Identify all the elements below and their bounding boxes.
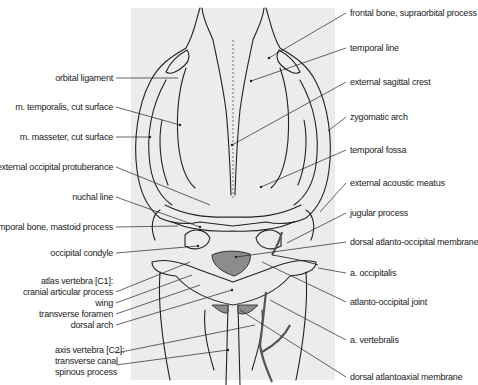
dorsal-atlantoaxial-membrane	[212, 305, 258, 314]
label-orbital-ligament: orbital ligament	[55, 73, 113, 83]
label-cranial-articular-process: cranial articular process	[23, 287, 113, 297]
label-jugular-process: jugular process	[350, 208, 408, 218]
label-m-masseter: m. masseter, cut surface	[20, 132, 113, 142]
label-m-temporalis: m. temporalis, cut surface	[15, 102, 113, 112]
label-wing: wing	[95, 298, 113, 308]
label-nuchal-line: nuchal line	[72, 192, 113, 202]
label-dorsal-arch: dorsal arch	[71, 320, 113, 330]
label-dorsal-atlanto-occipital-membrane: dorsal atlanto-occipital membrane	[350, 237, 478, 247]
label-temporal-fossa: temporal fossa	[350, 145, 406, 155]
dorsal-atlanto-occipital-membrane	[212, 251, 250, 276]
label-external-occipital-protuberance: external occipital protuberance	[0, 162, 113, 172]
label-dorsal-atlantoaxial-membrane: dorsal atlantoaxial membrane	[350, 372, 462, 382]
label-atlas-vertebra: atlas vertebra [C1]:	[41, 276, 113, 286]
a-vertebralis-vessel	[260, 232, 290, 382]
label-external-sagittal-crest: external sagittal crest	[350, 77, 430, 87]
label-external-acoustic-meatus: external acoustic meatus	[350, 178, 445, 188]
label-transverse-foramen: transverse foramen	[39, 309, 113, 319]
label-atlanto-occipital-joint: atlanto-occipital joint	[350, 297, 427, 307]
label-frontal-bone-supraorbital-process: frontal bone, supraorbital process	[350, 8, 477, 18]
label-axis-vertebra: axis vertebra [C2]:	[55, 345, 124, 355]
label-spinous-process: spinous process	[55, 367, 117, 377]
label-a-occipitalis: a. occipitalis	[350, 268, 396, 278]
label-temporal-line: temporal line	[350, 43, 399, 53]
label-transverse-canal: transverse canal	[55, 356, 118, 366]
label-occipital-condyle: occipital condyle	[50, 248, 113, 258]
label-mastoid-process: temporal bone, mastoid process	[0, 222, 113, 232]
label-a-vertebralis: a. vertebralis	[350, 335, 399, 345]
label-zygomatic-arch: zygomatic arch	[350, 112, 408, 122]
